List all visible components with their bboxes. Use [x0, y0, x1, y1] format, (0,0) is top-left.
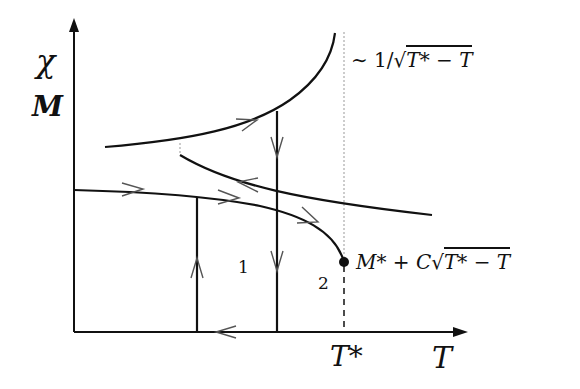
- lower-branch-curve: [74, 190, 344, 262]
- y-axis-arrowhead: [69, 18, 79, 32]
- path-label-2: 2: [318, 273, 329, 293]
- y-label-chi: χ: [36, 42, 55, 80]
- x-axis-arrowhead: [453, 327, 468, 337]
- y-label-m: M: [32, 90, 63, 123]
- x-label-t: T: [432, 340, 452, 375]
- arrow-right-lower-left: [122, 183, 143, 196]
- axes: [74, 28, 460, 332]
- middle-branch-curve: [180, 155, 432, 215]
- hysteresis-diagram: [0, 0, 580, 389]
- arrow-down-lower-curve: [297, 207, 318, 223]
- critical-point: [339, 257, 349, 267]
- critical-prefix: M* + C√: [356, 250, 444, 274]
- divergence-prefix: ∼ 1/√: [351, 48, 406, 72]
- x-tick-tstar: T*: [330, 340, 363, 373]
- upper-branch-curve: [105, 33, 335, 147]
- critical-radicand: T* − T: [444, 247, 510, 274]
- divergence-radicand: T* − T: [406, 45, 472, 72]
- path-label-1: 1: [238, 257, 249, 277]
- divergence-annotation: ∼ 1/√T* − T: [351, 48, 472, 72]
- critical-annotation: M* + C√T* − T: [356, 250, 510, 274]
